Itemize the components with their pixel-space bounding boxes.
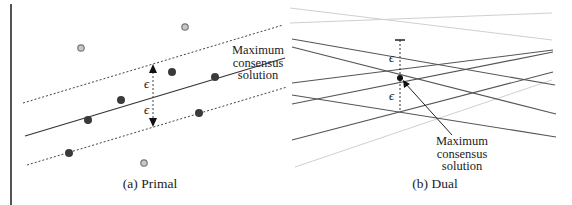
outlier-points <box>78 24 188 166</box>
dual-panel: ϵ ϵ Maximum consensus solution (b) Dual <box>285 0 572 205</box>
light-lines <box>290 8 552 167</box>
maximum-consensus-label: Maximum consensus solution <box>226 44 290 82</box>
epsilon-label-lower: ϵ <box>144 102 149 118</box>
epsilon-label-lower: ϵ <box>389 88 394 104</box>
arrow-down-icon <box>149 118 157 127</box>
primal-panel: ϵ ϵ Maximum consensus solution (a) Prima… <box>0 0 290 205</box>
dual-plot <box>285 0 572 205</box>
epsilon-label-upper: ϵ <box>144 76 149 92</box>
caption-dual: (b) Dual <box>395 176 475 192</box>
inlier-points <box>65 68 219 157</box>
caption-primal: (a) Primal <box>100 176 200 192</box>
solution-point <box>397 75 403 81</box>
epsilon-label-upper: ϵ <box>389 50 394 66</box>
dark-lines <box>292 39 556 140</box>
maximum-consensus-label: Maximum consensus solution <box>428 135 496 173</box>
